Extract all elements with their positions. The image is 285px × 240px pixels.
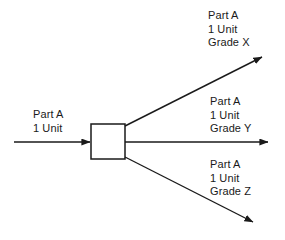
output-grade-x-label: Part A 1 Unit Grade X bbox=[208, 9, 250, 50]
output-grade-z-line-3: Grade Z bbox=[210, 185, 251, 199]
process-box bbox=[91, 124, 125, 159]
input-flow-line-2: 1 Unit bbox=[33, 122, 64, 136]
output-grade-z-line-2: 1 Unit bbox=[210, 172, 251, 186]
output-grade-x-line-1: Part A bbox=[208, 9, 250, 23]
input-flow-line-1: Part A bbox=[33, 108, 64, 122]
output-grade-x-line-2: 1 Unit bbox=[208, 23, 250, 37]
output-grade-x-line-3: Grade X bbox=[208, 36, 250, 50]
output-grade-z-label: Part A 1 Unit Grade Z bbox=[210, 158, 251, 199]
output-grade-y-line-3: Grade Y bbox=[210, 122, 251, 136]
output-grade-y-label: Part A 1 Unit Grade Y bbox=[210, 95, 251, 136]
input-flow-label: Part A 1 Unit bbox=[33, 108, 64, 135]
output-grade-y-line-1: Part A bbox=[210, 95, 251, 109]
output-grade-y-line-2: 1 Unit bbox=[210, 109, 251, 123]
output-grade-z-line-1: Part A bbox=[210, 158, 251, 172]
process-flow-diagram: Part A 1 Unit Part A 1 Unit Grade X Part… bbox=[0, 0, 285, 240]
